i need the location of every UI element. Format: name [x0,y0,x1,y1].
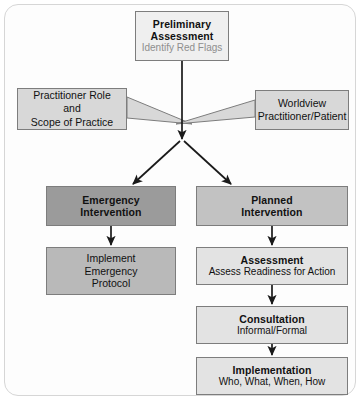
node-implementation: Implementation Who, What, When, How [196,357,348,395]
practitioner-line1: Practitioner Role [33,89,111,101]
emergency-title-line2: Intervention [80,206,141,218]
flowchart-figure: Preliminary Assessment Identify Red Flag… [0,0,363,402]
planned-title-line2: Intervention [241,206,302,218]
node-consultation: Consultation Informal/Formal [196,306,348,344]
implement-protocol-line3: Protocol [92,277,131,289]
node-assessment: Assessment Assess Readiness for Action [196,247,348,285]
emergency-title-line1: Emergency [82,194,140,206]
worldview-line1: Worldview [278,97,326,109]
consultation-subtitle: Informal/Formal [237,325,307,337]
node-preliminary-assessment: Preliminary Assessment Identify Red Flag… [135,11,229,61]
consultation-title: Consultation [239,313,304,325]
preliminary-subtitle: Identify Red Flags [142,42,223,54]
practitioner-line3: Scope of Practice [31,116,113,128]
node-implement-emergency-protocol: Implement Emergency Protocol [46,247,176,295]
node-emergency-intervention: Emergency Intervention [46,186,176,226]
junction-to-emergency-arrow [133,141,180,184]
preliminary-title-line1: Preliminary [153,18,211,30]
assessment-title: Assessment [241,254,304,266]
implementation-title: Implementation [233,364,312,376]
worldview-callout-tail [176,100,255,124]
implement-protocol-line1: Implement [86,252,135,264]
practitioner-line2: and [63,102,81,114]
assessment-subtitle: Assess Readiness for Action [209,266,336,278]
callout-worldview: Worldview Practitioner/Patient [255,90,349,130]
callout-practitioner-role: Practitioner Role and Scope of Practice [17,88,127,130]
preliminary-title-line2: Assessment [151,30,214,42]
worldview-line2: Practitioner/Patient [258,110,347,122]
junction-to-planned-arrow [184,141,231,184]
implementation-subtitle: Who, What, When, How [219,376,326,388]
planned-title-line1: Planned [251,194,293,206]
node-planned-intervention: Planned Intervention [196,186,348,226]
implement-protocol-line2: Emergency [84,265,137,277]
